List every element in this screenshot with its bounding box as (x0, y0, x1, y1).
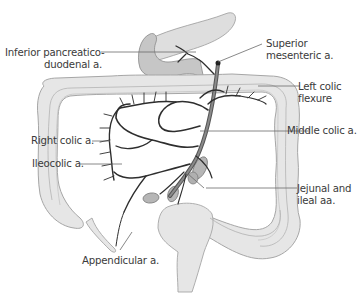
label-line: Superior (266, 38, 333, 50)
label-line: Jejunal and (297, 183, 351, 195)
label-inferior-pancreaticoduodenal: Inferior pancreatico- duodenal a. (5, 47, 102, 71)
label-line: ileal aa. (297, 195, 351, 207)
pancreas (148, 13, 236, 62)
label-line: flexure (298, 93, 342, 105)
appendix (86, 218, 116, 252)
label-line: duodenal a. (5, 59, 102, 71)
small-intestine (158, 203, 213, 292)
label-jejunal-ileal: Jejunal and ileal aa. (297, 183, 351, 207)
label-superior-mesenteric: Superior mesenteric a. (266, 38, 333, 62)
label-appendicular: Appendicular a. (82, 255, 159, 267)
label-middle-colic: Middle colic a. (287, 125, 357, 137)
label-ileocolic: Ileocolic a. (32, 158, 84, 170)
label-line: mesenteric a. (266, 50, 333, 62)
label-line: Left colic (298, 81, 342, 93)
label-line: Inferior pancreatico- (5, 47, 102, 59)
cut-bowel-1 (142, 192, 159, 204)
label-left-colic-flexure: Left colic flexure (298, 81, 342, 105)
label-right-colic: Right colic a. (31, 135, 94, 147)
